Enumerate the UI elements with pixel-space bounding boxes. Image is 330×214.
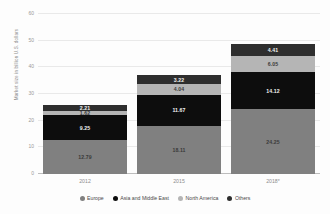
legend-item[interactable]: Europe xyxy=(80,195,104,201)
y-axis-tick-label: 0 xyxy=(31,170,34,176)
bar-value-label: 1.62 xyxy=(80,111,91,115)
bar-value-label: 6.05 xyxy=(268,61,279,67)
y-axis-tick-label: 50 xyxy=(28,37,34,43)
bar-segment: 12.79 xyxy=(43,140,127,174)
bar-value-label: 11.67 xyxy=(172,107,185,113)
bar-segment: 14.12 xyxy=(231,72,315,110)
bar-value-label: 4.41 xyxy=(268,47,279,53)
y-axis-title: Market size in billion U.S. dollars xyxy=(14,5,19,125)
y-axis-tick-label: 40 xyxy=(28,63,34,69)
legend-item[interactable]: North America xyxy=(178,195,218,201)
legend-swatch-icon xyxy=(227,196,232,201)
bar-segment: 9.25 xyxy=(43,115,127,140)
x-axis-tick-label: 2015 xyxy=(173,178,185,184)
bar-value-label: 4.04 xyxy=(174,86,185,92)
bar-value-label: 18.11 xyxy=(172,147,185,153)
y-axis-tick-label: 60 xyxy=(28,10,34,16)
bar-value-label: 14.12 xyxy=(266,88,279,94)
bar-segment: 6.05 xyxy=(231,56,315,72)
bar-group: 24.2514.126.054.41 xyxy=(231,14,315,174)
bar-segment: 1.62 xyxy=(43,111,127,115)
bar-segment: 18.11 xyxy=(137,126,221,174)
y-axis-tick-label: 30 xyxy=(28,90,34,96)
bar-segment: 2.21 xyxy=(43,105,127,111)
x-axis-tick-label: 2018* xyxy=(266,178,280,184)
bar-segment: 4.41 xyxy=(231,44,315,56)
bar-value-label: 2.21 xyxy=(80,105,91,111)
legend-label: North America xyxy=(186,195,219,201)
bar-series-container: 12.799.251.622.2118.1111.674.043.2224.25… xyxy=(38,14,320,174)
bar-segment: 3.22 xyxy=(137,75,221,84)
legend-label: Europe xyxy=(87,195,104,201)
plot-area: 0102030405060 12.799.251.622.2118.1111.6… xyxy=(38,14,320,174)
bar-segment: 24.25 xyxy=(231,109,315,174)
legend-item[interactable]: Asia and Middle East xyxy=(113,195,169,201)
legend-swatch-icon xyxy=(178,196,183,201)
bar-group: 12.799.251.622.21 xyxy=(43,14,127,174)
bar-value-label: 12.79 xyxy=(78,154,91,160)
bar-value-label: 24.25 xyxy=(266,139,279,145)
y-axis-tick-label: 10 xyxy=(28,143,34,149)
chart-legend: EuropeAsia and Middle EastNorth AmericaO… xyxy=(0,195,330,201)
legend-item[interactable]: Others xyxy=(227,195,250,201)
bar-segment: 11.67 xyxy=(137,95,221,126)
x-axis-tick-label: 2012 xyxy=(79,178,91,184)
stacked-bar-chart: Market size in billion U.S. dollars 0102… xyxy=(0,0,330,214)
y-axis-tick-label: 20 xyxy=(28,117,34,123)
legend-label: Asia and Middle East xyxy=(120,195,169,201)
bar-segment: 4.04 xyxy=(137,84,221,95)
legend-label: Others xyxy=(235,195,251,201)
bar-value-label: 9.25 xyxy=(80,125,91,131)
legend-swatch-icon xyxy=(113,196,118,201)
bar-value-label: 3.22 xyxy=(174,77,185,83)
legend-swatch-icon xyxy=(80,196,85,201)
bar-group: 18.1111.674.043.22 xyxy=(137,14,221,174)
